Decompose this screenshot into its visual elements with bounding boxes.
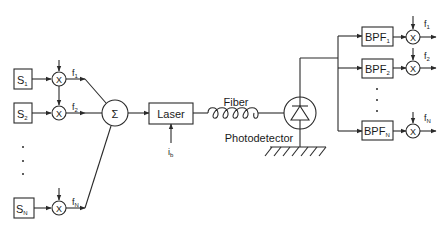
tx-mixer-1: X — [52, 72, 66, 86]
source-sn-block: SN — [14, 198, 34, 218]
mixern-to-summer-line — [85, 126, 111, 208]
fiber-coil-icon — [208, 108, 258, 119]
bpf-1-block: BPF1 — [362, 27, 393, 46]
svg-text:X: X — [410, 33, 416, 43]
rx-mixer-2: X — [406, 61, 420, 75]
bias-current-label: ib — [168, 147, 174, 158]
laser-block: Laser — [149, 103, 193, 124]
photodetector-label: Photodetector — [225, 132, 294, 144]
tx-mixer-n: X — [52, 201, 66, 215]
filter-ellipsis-dots — [376, 88, 378, 112]
rx-freq-label-1: f1 — [424, 19, 431, 30]
svg-text:X: X — [56, 75, 62, 85]
rx-freq-label-2: f2 — [424, 51, 431, 62]
rx-mixer-1: X — [406, 30, 420, 44]
svg-text:X: X — [410, 127, 416, 137]
mixer1-to-summer-line — [85, 79, 106, 103]
bpf-2-block: BPF2 — [362, 59, 393, 78]
source-ellipsis-dots — [22, 146, 24, 175]
photodetector-icon — [284, 97, 316, 129]
svg-text:Laser: Laser — [157, 108, 185, 120]
rx-freq-label-n: fN — [424, 113, 431, 124]
tx-freq-label-1: f1 — [72, 68, 79, 79]
tx-freq-label-2: f2 — [72, 102, 79, 113]
fiber-label: Fiber — [223, 96, 248, 108]
svg-text:X: X — [410, 64, 416, 74]
svg-text:X: X — [56, 109, 62, 119]
bpf-n-block: BPFN — [362, 121, 393, 140]
rof-block-diagram: S1 S2 SN X X X f1 f2 fN — [0, 0, 446, 227]
source-s2-block: S2 — [14, 103, 32, 123]
source-s1-block: S1 — [14, 69, 32, 89]
tx-freq-label-n: fN — [72, 197, 79, 208]
svg-text:X: X — [56, 204, 62, 214]
rx-mixer-n: X — [406, 124, 420, 138]
summer-block: Σ — [102, 100, 128, 126]
tx-mixer-2: X — [52, 106, 66, 120]
svg-text:Σ: Σ — [112, 108, 119, 120]
ground-hatch-icon — [265, 147, 326, 156]
